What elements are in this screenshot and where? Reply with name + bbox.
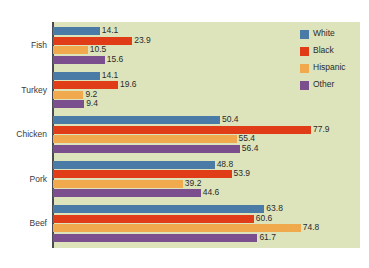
bar-value-label: 14.1: [100, 25, 119, 35]
bar: [53, 135, 237, 143]
legend-label: Other: [313, 79, 334, 89]
bar: [53, 46, 88, 54]
bar-row: 48.8: [53, 161, 360, 169]
bar: [53, 170, 232, 178]
bar-value-label: 60.6: [254, 213, 273, 223]
bar: [53, 56, 105, 64]
legend-swatch-icon: [300, 81, 309, 90]
bar: [53, 100, 84, 108]
category-group: Chicken50.477.955.456.4: [0, 116, 369, 154]
bar-value-label: 23.9: [132, 35, 151, 45]
legend-swatch-icon: [300, 30, 309, 39]
category-group: Pork48.853.939.244.6: [0, 161, 369, 199]
bar: [53, 215, 254, 223]
bar-value-label: 19.6: [118, 79, 137, 89]
legend-label: Black: [313, 45, 334, 55]
legend-item: Other: [300, 79, 366, 94]
bar-value-label: 39.2: [183, 178, 202, 188]
bar-row: 44.6: [53, 189, 360, 197]
legend-label: Hispanic: [313, 62, 346, 72]
bar-row: 63.8: [53, 205, 360, 213]
bar-value-label: 9.4: [84, 98, 98, 108]
figure-caption: [18, 258, 363, 268]
bar-value-label: 44.6: [201, 187, 220, 197]
bar-value-label: 55.4: [237, 133, 256, 143]
bar: [53, 189, 201, 197]
legend-swatch-icon: [300, 47, 309, 56]
bar: [53, 116, 220, 124]
bar-row: 74.8: [53, 224, 360, 232]
bar-value-label: 74.8: [301, 222, 320, 232]
bar: [53, 145, 240, 153]
legend-label: White: [313, 28, 335, 38]
bar-value-label: 15.6: [105, 54, 124, 64]
legend-item: Black: [300, 45, 366, 60]
bar-value-label: 10.5: [88, 44, 107, 54]
bar-value-label: 56.4: [240, 143, 259, 153]
bar: [53, 72, 100, 80]
category-label: Chicken: [0, 129, 47, 139]
chart-figure: Fish14.123.910.515.6Turkey14.119.69.29.4…: [0, 0, 369, 268]
bar-value-label: 63.8: [264, 203, 283, 213]
legend-item: White: [300, 28, 366, 43]
bar-row: 77.9: [53, 126, 360, 134]
category-group: Beef63.860.674.861.7: [0, 205, 369, 243]
bar-value-label: 61.7: [257, 232, 276, 242]
bar-value-label: 14.1: [100, 70, 119, 80]
bar-row: 53.9: [53, 170, 360, 178]
bar-row: 55.4: [53, 135, 360, 143]
category-label: Pork: [0, 174, 47, 184]
bar-value-label: 77.9: [311, 124, 330, 134]
category-label: Fish: [0, 40, 47, 50]
bar-value-label: 53.9: [232, 168, 251, 178]
category-label: Beef: [0, 218, 47, 228]
bar: [53, 180, 183, 188]
category-label: Turkey: [0, 85, 47, 95]
chart-legend: WhiteBlackHispanicOther: [300, 28, 366, 96]
bar-row: 56.4: [53, 145, 360, 153]
bar: [53, 126, 311, 134]
bar-value-label: 50.4: [220, 114, 239, 124]
bar: [53, 91, 83, 99]
bar-row: 61.7: [53, 234, 360, 242]
legend-swatch-icon: [300, 64, 309, 73]
bar-row: 9.4: [53, 100, 360, 108]
bar: [53, 205, 264, 213]
bar-value-label: 48.8: [215, 159, 234, 169]
bar: [53, 27, 100, 35]
bar-value-label: 9.2: [83, 89, 97, 99]
bar: [53, 234, 257, 242]
legend-item: Hispanic: [300, 62, 366, 77]
bar: [53, 161, 215, 169]
